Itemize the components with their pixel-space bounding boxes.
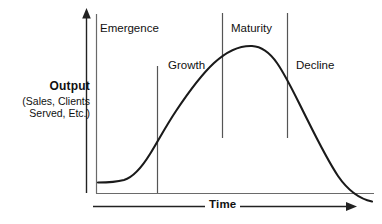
x-axis-title: Time: [205, 198, 240, 211]
y-axis-subtitle-line1: (Sales, Clients: [22, 95, 90, 107]
y-axis-subtitle-line2: Served, Etc.): [29, 107, 90, 119]
y-axis-subtitle: (Sales, ClientsServed, Etc.): [0, 96, 90, 120]
product-life-cycle-figure: Emergence Growth Maturity Decline Output…: [0, 0, 382, 224]
y-axis-title: Output: [0, 80, 90, 93]
phase-label-growth: Growth: [168, 59, 205, 72]
phase-label-emergence: Emergence: [100, 22, 159, 35]
phase-divider-lines: [158, 13, 288, 193]
phase-label-maturity: Maturity: [231, 22, 272, 35]
phase-label-decline: Decline: [296, 59, 334, 72]
